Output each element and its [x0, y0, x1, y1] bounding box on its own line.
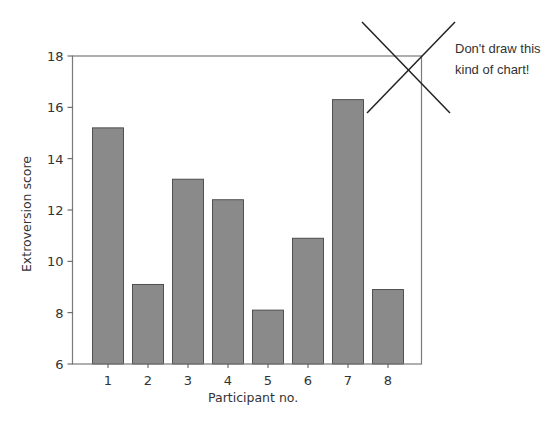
bar-participant-1 [93, 128, 124, 364]
y-tick-label: 14 [47, 152, 64, 167]
annotation-line-1: Don't draw this [455, 41, 541, 56]
x-tick-label: 4 [224, 373, 232, 388]
x-tick-label: 5 [264, 373, 272, 388]
bar-participant-2 [133, 284, 164, 364]
x-tick-label: 1 [104, 373, 112, 388]
bar-participant-5 [253, 310, 284, 364]
y-tick-label: 18 [47, 49, 64, 64]
x-tick-label: 7 [344, 373, 352, 388]
y-tick-label: 8 [55, 306, 63, 321]
cross-out-icon [362, 22, 455, 113]
x-axis-title: Participant no. [208, 390, 298, 405]
bar-chart: 681012141618 12345678 Participant no. Ex… [0, 0, 555, 424]
x-axis: 12345678 [104, 364, 392, 388]
annotation-line-2: kind of chart! [455, 62, 529, 77]
y-tick-label: 12 [47, 203, 64, 218]
x-tick-label: 2 [144, 373, 152, 388]
bar-participant-3 [173, 179, 204, 364]
bar-participant-4 [213, 200, 244, 364]
bar-participant-8 [373, 290, 404, 364]
x-tick-label: 6 [304, 373, 312, 388]
bar-participant-6 [293, 238, 324, 364]
plot-frame [73, 56, 422, 364]
bars-group [93, 100, 404, 364]
bar-participant-7 [333, 100, 364, 364]
y-tick-label: 16 [47, 100, 64, 115]
x-tick-label: 3 [184, 373, 192, 388]
y-tick-label: 6 [55, 357, 63, 372]
y-axis: 681012141618 [47, 49, 73, 372]
y-tick-label: 10 [47, 254, 64, 269]
x-tick-label: 8 [384, 373, 392, 388]
y-axis-title: Extroversion score [19, 156, 34, 272]
